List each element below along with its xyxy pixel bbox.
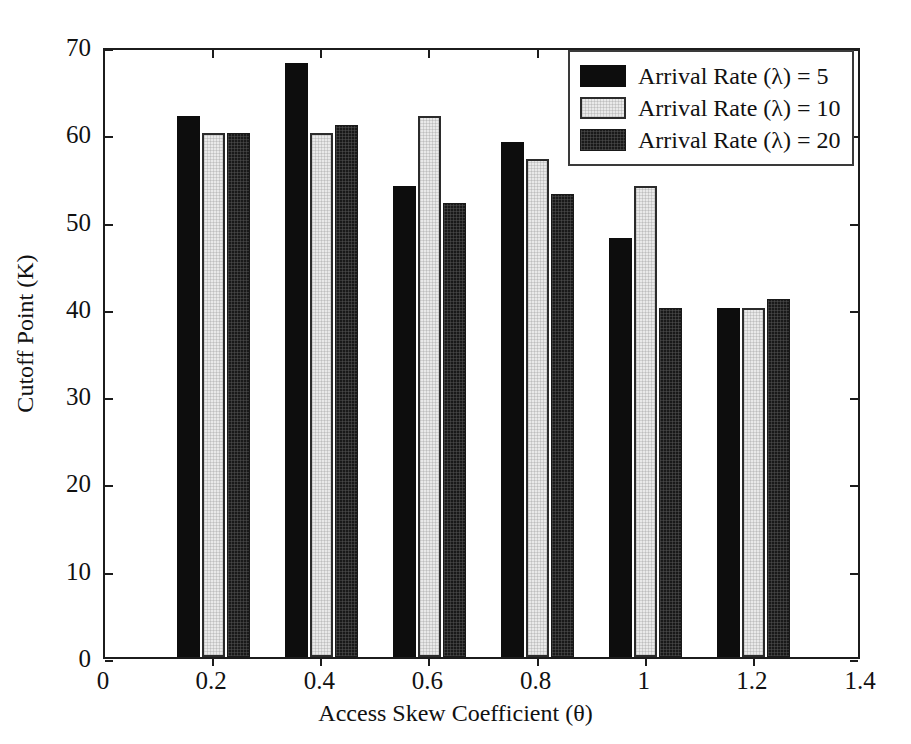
bar [177,116,200,657]
legend-label: Arrival Rate (λ) = 5 [638,64,828,88]
x-axis-tick-top [537,50,539,58]
y-axis-tick-right [850,311,858,313]
x-axis-tick-label: 0.6 [387,668,467,693]
y-axis-tick-label: 40 [35,297,91,322]
bar [418,116,441,657]
y-axis-tick-right [850,398,858,400]
x-axis-tick-label: 1 [604,668,684,693]
x-axis-tick-label: 1.4 [820,668,900,693]
y-axis-tick-right [850,485,858,487]
bar [717,308,740,657]
x-axis-tick [753,657,755,666]
x-axis-tick [537,657,539,666]
bar [634,186,657,657]
x-axis-tick [212,657,214,666]
x-axis-tick-label: 0.8 [496,668,576,693]
bar [526,159,549,657]
bar [227,133,250,657]
legend-swatch-icon [580,129,626,151]
x-axis-tick [320,657,322,666]
bar [767,299,790,657]
x-axis-tick [645,657,647,666]
legend-item: Arrival Rate (λ) = 10 [580,92,840,124]
legend-label: Arrival Rate (λ) = 20 [638,128,840,152]
bar [443,203,466,657]
y-axis-tick-label: 70 [35,35,91,60]
legend-label: Arrival Rate (λ) = 10 [638,96,840,120]
bar [501,142,524,657]
legend-swatch-icon [580,65,626,87]
legend-item: Arrival Rate (λ) = 5 [580,60,840,92]
x-axis-tick [428,657,430,666]
y-axis-tick-right [850,660,858,662]
legend-item: Arrival Rate (λ) = 20 [580,124,840,156]
legend-swatch-icon [580,97,626,119]
y-axis-tick-label: 30 [35,384,91,409]
y-axis-tick-label: 10 [35,559,91,584]
bar [393,186,416,657]
x-axis-tick-top [320,50,322,58]
y-axis-tick [105,224,113,226]
y-axis-tick [105,398,113,400]
x-axis-tick-label: 1.2 [712,668,792,693]
bar [742,308,765,657]
bar [285,63,308,657]
y-axis-tick-right [850,224,858,226]
chart-figure: Cutoff Point (K) Access Skew Coefficient… [0,0,911,744]
bar [335,125,358,657]
y-axis-tick [105,311,113,313]
y-axis-tick [105,49,113,51]
x-axis-tick-label: 0 [63,668,143,693]
y-axis-tick [105,136,113,138]
y-axis-tick-label: 60 [35,122,91,147]
bar [310,133,333,657]
y-axis-tick [105,485,113,487]
x-axis-tick-top [212,50,214,58]
bar [609,238,632,657]
bar [551,194,574,657]
y-axis-tick-label: 50 [35,210,91,235]
y-axis-tick-label: 20 [35,471,91,496]
x-axis-tick-label: 0.4 [279,668,359,693]
chart-legend: Arrival Rate (λ) = 5Arrival Rate (λ) = 1… [568,50,854,166]
y-axis-tick [105,660,113,662]
y-axis-tick-right [850,573,858,575]
bar [202,133,225,657]
x-axis-tick-top [428,50,430,58]
x-axis-title: Access Skew Coefficient (θ) [0,700,911,727]
x-axis-tick-label: 0.2 [171,668,251,693]
y-axis-tick [105,573,113,575]
bar [659,308,682,657]
